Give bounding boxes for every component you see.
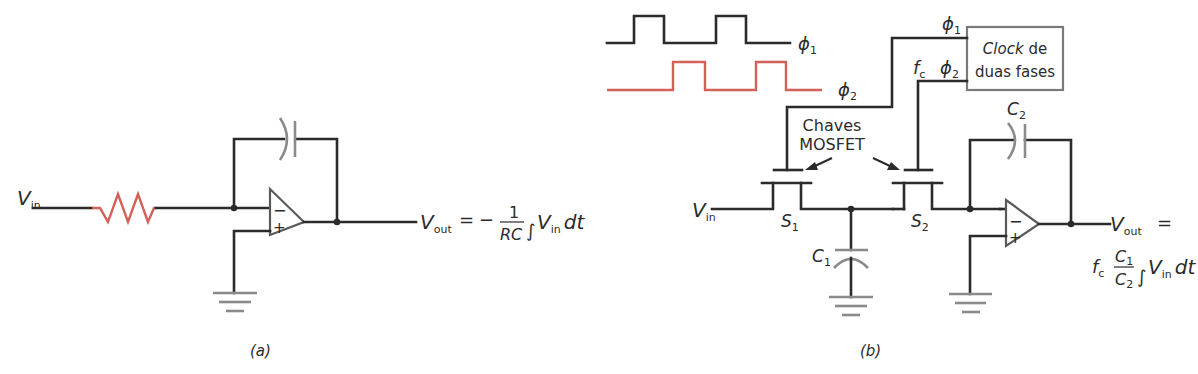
circuit-diagram: − + Vin Vout = − 1 RC ∫ Vindt (a) ϕ1 [0, 0, 1198, 374]
resistor-icon [92, 194, 156, 222]
s1-label: S1 [781, 211, 799, 234]
phi1-waveform-label: ϕ1 [798, 33, 817, 57]
c2-feedback-left [970, 140, 1013, 209]
opamp-minus: − [273, 201, 286, 220]
svg-text:−: − [479, 209, 494, 230]
switches-label-line2: MOSFET [799, 135, 865, 154]
ground-wire-b [970, 236, 1006, 294]
s2-label: S2 [911, 211, 929, 234]
panel-a-integrator: − + Vin Vout = − 1 RC ∫ Vindt (a) [17, 118, 585, 360]
phi2-waveform-label: ϕ2 [838, 79, 857, 103]
arrow-to-s2-icon [873, 158, 892, 167]
c2-label: C2 [1007, 99, 1026, 122]
vin-label: Vin [17, 186, 41, 212]
switches-label-line1: Chaves [803, 116, 862, 135]
mosfet-s2-icon [893, 170, 1000, 209]
svg-text:RC: RC [500, 225, 523, 244]
output-equation-a: Vout = − 1 RC ∫ Vindt [420, 203, 585, 244]
c2-feedback-right [1025, 140, 1071, 224]
ground-c1-icon [829, 297, 873, 315]
caption-a: (a) [250, 342, 271, 360]
opamp-plus: + [273, 219, 286, 237]
svg-text:fc: fc [1092, 256, 1104, 280]
panel-b-switched-capacitor: ϕ1 ϕ2 Clock de duas fases ϕ1 ϕ2 fc Chave… [607, 13, 1196, 360]
svg-text:=: = [459, 209, 474, 230]
output-junction-dot [334, 219, 341, 226]
svg-text:=: = [1157, 212, 1172, 233]
svg-text:∫: ∫ [526, 220, 535, 241]
ground-wire [234, 231, 270, 293]
svg-text:C2: C2 [1115, 270, 1133, 291]
opamp-b-plus: + [1009, 229, 1022, 247]
vin-label-b: Vin [692, 198, 716, 224]
ground-icon [213, 293, 257, 311]
svg-text:∫: ∫ [1137, 266, 1146, 287]
svg-text:Vindt: Vindt [537, 210, 585, 236]
ground-b-icon [949, 294, 992, 312]
svg-text:Vindt: Vindt [1148, 255, 1196, 281]
svg-text:Vout: Vout [420, 210, 452, 236]
svg-text:C1: C1 [1115, 247, 1133, 268]
phi2-waveform [607, 62, 822, 90]
phi2-gate-wire [918, 81, 967, 170]
svg-text:1: 1 [509, 203, 519, 222]
phi1-waveform [607, 16, 790, 43]
c1-label: C1 [812, 246, 831, 269]
svg-text:Vout: Vout [1110, 212, 1142, 238]
fc-label: fc [913, 57, 925, 81]
clock-box-line2: duas fases [975, 63, 1055, 81]
mosfet-s1-icon [712, 170, 893, 209]
caption-b: (b) [860, 342, 881, 360]
feedback-wire-right [297, 139, 337, 222]
phi2-wire-label: ϕ2 [940, 57, 959, 81]
output-junction-dot-b [1068, 221, 1075, 228]
clock-box-line1: Clock de [983, 40, 1047, 58]
phi1-wire-label: ϕ1 [942, 13, 961, 37]
